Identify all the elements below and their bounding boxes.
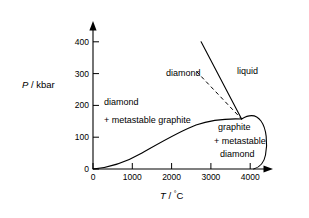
x-tick-label-4000: 4000 [241,172,260,182]
region-label-liquid: liquid [237,66,258,76]
x-axis-arrowhead [264,165,274,172]
region-label-plus-metastable: + metastable [214,136,266,146]
x-axis-title-rest: / [166,190,174,201]
y-tick-label-300: 300 [75,69,89,79]
y-axis-title-rest: / kbar [28,79,54,90]
y-axis-tick-labels: 0 100 200 300 400 [75,37,89,174]
region-label-diamond-lower: diamond [220,149,255,159]
diamond-melting-line [201,42,242,119]
x-axis-tick-labels: 0 1000 2000 3000 4000 [91,172,260,182]
carbon-phase-diagram: 0 100 200 300 400 0 1000 2000 3000 4000 [0,0,309,218]
y-axis-ticks [93,42,99,169]
x-tick-label-1000: 1000 [123,172,142,182]
y-tick-label-100: 100 [75,132,89,142]
region-label-diamond: diamond [104,97,139,107]
x-tick-label-2000: 2000 [162,172,181,182]
x-tick-label-0: 0 [91,172,96,182]
y-tick-label-0: 0 [84,164,89,174]
region-label-metastable-graphite: + metastable graphite [104,115,191,125]
metastable-graphite-melting-line-dashed [196,71,241,119]
y-axis [89,21,96,169]
y-axis-arrowhead [89,21,96,31]
x-tick-label-3000: 3000 [201,172,220,182]
y-axis-title: P / kbar [22,79,55,90]
y-tick-label-200: 200 [75,100,89,110]
phase-diagram-plot: 0 100 200 300 400 0 1000 2000 3000 4000 [0,0,309,218]
y-tick-label-400: 400 [75,37,89,47]
region-label-diamond-upper: diamond [166,68,201,78]
x-axis-title-unit: C [177,190,184,201]
x-axis-title: T / °C [160,190,184,201]
region-label-graphite: graphite [218,122,251,132]
